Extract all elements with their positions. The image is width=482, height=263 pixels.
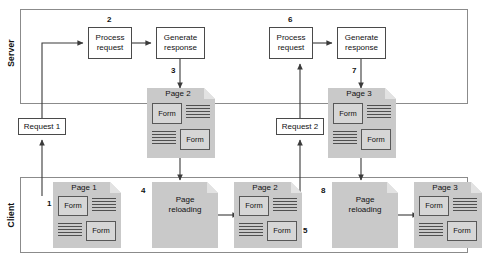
response-page-3-document[interactable]: Page 3 Form Form	[328, 88, 396, 158]
form-label: Form	[245, 202, 263, 210]
generate-response-line1: Generate	[164, 33, 197, 43]
process-request-line2: request	[277, 43, 306, 53]
form-box-top[interactable]: Form	[333, 103, 363, 124]
page-reloading-line1: Page	[155, 195, 215, 205]
form-box-top[interactable]: Form	[152, 103, 182, 124]
page-reloading-document-2[interactable]: Page reloading	[332, 182, 398, 248]
request-2-box[interactable]: Request 2	[276, 118, 324, 135]
page-body: Form Form	[57, 195, 117, 244]
text-lines-bottom	[239, 223, 263, 238]
form-label: Form	[453, 227, 471, 235]
page-body: Form Form	[332, 101, 392, 154]
page-title: Page 2	[147, 89, 215, 99]
page-reloading-line1: Page	[335, 195, 395, 205]
step-number-1: 1	[47, 199, 51, 208]
page-body: Form Form	[238, 195, 298, 244]
step-number-6: 6	[288, 15, 292, 24]
step-number-7: 7	[352, 66, 356, 75]
form-label: Form	[367, 136, 385, 144]
form-box-bottom[interactable]: Form	[86, 221, 116, 241]
text-lines-bottom	[333, 131, 357, 146]
step-number-4: 4	[141, 186, 145, 195]
text-lines-bottom	[419, 223, 443, 238]
text-lines-top	[273, 198, 297, 213]
page-title: Page 3	[328, 89, 396, 99]
text-lines-top	[92, 198, 116, 213]
page-reloading-document-1[interactable]: Page reloading	[152, 182, 218, 248]
page-body: Form Form	[151, 101, 211, 154]
request-1-box[interactable]: Request 1	[18, 118, 66, 135]
lane-label-server: Server	[6, 33, 16, 73]
form-label: Form	[425, 202, 443, 210]
form-label: Form	[273, 227, 291, 235]
form-box-top[interactable]: Form	[58, 196, 88, 216]
form-box-top[interactable]: Form	[419, 196, 449, 216]
process-request-line1: Process	[277, 33, 306, 43]
request-1-label: Request 1	[24, 122, 60, 131]
response-page-2-document[interactable]: Page 2 Form Form	[147, 88, 215, 158]
generate-response-box-2[interactable]: Generate response	[337, 27, 386, 59]
form-label: Form	[158, 110, 176, 118]
process-request-line1: Process	[96, 33, 125, 43]
generate-response-box-1[interactable]: Generate response	[156, 27, 205, 59]
page-reloading-text: Page reloading	[332, 195, 398, 215]
text-lines-top	[453, 198, 477, 213]
form-label: Form	[339, 110, 357, 118]
form-box-bottom[interactable]: Form	[447, 221, 477, 241]
page-title: Page 3	[414, 183, 482, 193]
client-page-2-document[interactable]: Page 2 Form Form	[234, 182, 302, 248]
step-number-2: 2	[107, 15, 111, 24]
lane-label-client: Client	[6, 195, 16, 235]
page-title: Page 1	[53, 183, 121, 193]
page-reloading-line2: reloading	[155, 205, 215, 215]
text-lines-bottom	[58, 223, 82, 238]
form-box-bottom[interactable]: Form	[267, 221, 297, 241]
page-title: Page 2	[234, 183, 302, 193]
request-2-label: Request 2	[282, 122, 318, 131]
page-reloading-text: Page reloading	[152, 195, 218, 215]
step-number-3: 3	[171, 66, 175, 75]
process-request-box-1[interactable]: Process request	[88, 27, 132, 59]
form-label: Form	[92, 227, 110, 235]
generate-response-line1: Generate	[345, 33, 378, 43]
page-body: Form Form	[418, 195, 478, 244]
form-box-top[interactable]: Form	[239, 196, 269, 216]
text-lines-bottom	[152, 131, 176, 146]
step-number-8: 8	[321, 186, 325, 195]
text-lines-top	[186, 105, 210, 120]
generate-response-line2: response	[164, 43, 197, 53]
form-label: Form	[186, 136, 204, 144]
process-request-box-2[interactable]: Process request	[269, 27, 313, 59]
form-box-bottom[interactable]: Form	[180, 129, 210, 150]
client-page-1-document[interactable]: Page 1 Form Form	[53, 182, 121, 248]
form-label: Form	[64, 202, 82, 210]
step-number-5: 5	[303, 226, 307, 235]
page-reloading-line2: reloading	[335, 205, 395, 215]
process-request-line2: request	[96, 43, 125, 53]
text-lines-top	[367, 105, 391, 120]
form-box-bottom[interactable]: Form	[361, 129, 391, 150]
generate-response-line2: response	[345, 43, 378, 53]
client-page-3-document[interactable]: Page 3 Form Form	[414, 182, 482, 248]
